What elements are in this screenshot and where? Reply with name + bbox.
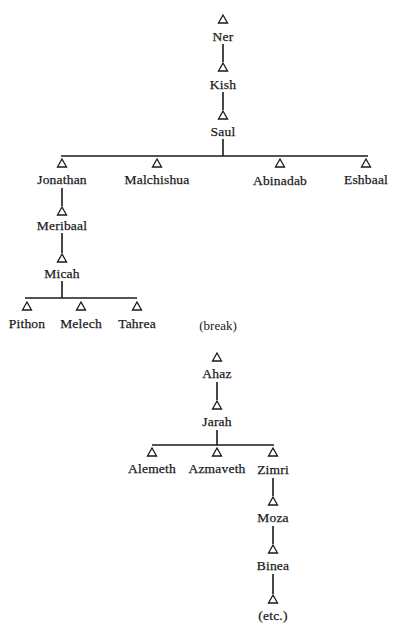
person-label-abinadab: Abinadab xyxy=(253,174,307,188)
triangle-icon xyxy=(269,497,278,505)
note-break: (break) xyxy=(199,319,237,333)
person-label-ahaz: Ahaz xyxy=(202,367,231,381)
person-label-etc: (etc.) xyxy=(258,609,287,623)
person-label-eshbaal: Eshbaal xyxy=(344,173,388,187)
person-label-micah: Micah xyxy=(44,267,80,281)
triangle-icon xyxy=(23,302,32,310)
triangle-icon xyxy=(58,159,67,167)
person-label-kish: Kish xyxy=(210,78,236,92)
person-label-jonathan: Jonathan xyxy=(37,173,87,187)
triangle-icon xyxy=(219,111,228,119)
person-label-alemeth: Alemeth xyxy=(128,462,176,476)
triangle-icon xyxy=(148,448,157,456)
triangle-icon xyxy=(213,401,222,409)
person-label-binea: Binea xyxy=(257,559,290,573)
triangle-icon xyxy=(362,159,371,167)
triangle-icon xyxy=(58,254,67,262)
triangle-icon xyxy=(269,545,278,553)
triangle-icon xyxy=(213,353,222,361)
triangle-icon xyxy=(219,15,228,23)
person-label-tahrea: Tahrea xyxy=(118,317,156,331)
person-label-pithon: Pithon xyxy=(9,317,45,331)
person-label-saul: Saul xyxy=(211,125,236,139)
triangle-icon xyxy=(276,159,285,167)
person-label-zimri: Zimri xyxy=(257,463,289,477)
triangle-icon xyxy=(213,448,222,456)
triangle-icon xyxy=(77,302,86,310)
triangle-icon xyxy=(269,595,278,603)
triangle-icon xyxy=(219,63,228,71)
triangle-icon xyxy=(153,159,162,167)
triangle-icon xyxy=(58,207,67,215)
person-label-ner: Ner xyxy=(213,30,234,44)
triangle-icon xyxy=(133,302,142,310)
person-label-meribaal: Meribaal xyxy=(37,219,87,233)
person-label-moza: Moza xyxy=(257,511,289,525)
triangle-icon xyxy=(269,448,278,456)
person-label-melech: Melech xyxy=(60,317,102,331)
person-label-jarah: Jarah xyxy=(202,415,231,429)
person-label-malchishua: Malchishua xyxy=(125,173,190,187)
person-label-azmaveth: Azmaveth xyxy=(188,462,245,476)
